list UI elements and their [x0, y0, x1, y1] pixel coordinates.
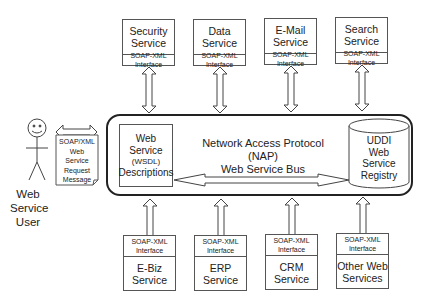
soap-xml-interface: SOAP-XMLInterface [265, 53, 316, 64]
soap-xml-interface: SOAP-XMLInterface [195, 236, 246, 257]
search-service-box: SearchService SOAP-XMLInterface [335, 17, 388, 64]
message-line1: SOAP/XML [56, 137, 98, 147]
service-name: ERPService [195, 257, 246, 290]
service-name: E-BizService [124, 257, 175, 290]
uddi-line3: Service [349, 158, 409, 170]
user-line1: Web [10, 187, 46, 201]
soap-xml-interface: SOAP-XMLInterface [124, 236, 175, 257]
top-arrow-email [284, 66, 298, 112]
service-name: DataService [194, 20, 245, 54]
security-service-box: SecurityService SOAP-XMLInterface [122, 19, 175, 66]
user-line2: Service [10, 201, 46, 215]
uddi-line4: Registry [349, 170, 409, 182]
service-name: E-MailService [265, 19, 316, 53]
uddi-line2: Web [349, 147, 409, 159]
top-arrow-data [213, 67, 227, 113]
crm-service-box: SOAP-XMLInterface CRMService [265, 234, 318, 290]
service-name: SecurityService [123, 20, 174, 54]
top-arrow-search [355, 65, 369, 111]
uddi-line1: UDDI [349, 135, 409, 147]
other-web-services-box: SOAP-XMLInterface Other WebServices [336, 233, 389, 289]
service-name: Other WebServices [337, 255, 388, 288]
bus-title-line2: Web Service Bus [188, 163, 338, 176]
message-line2: Web [56, 147, 98, 157]
service-name: CRMService [266, 256, 317, 289]
data-service-box: DataService SOAP-XMLInterface [193, 19, 246, 66]
bus-title: Network Access Protocol (NAP) Web Servic… [188, 137, 338, 176]
soap-xml-interface: SOAP-XMLInterface [337, 234, 388, 255]
web-service-user-label: Web Service User [10, 187, 46, 229]
top-arrow-security [142, 67, 156, 113]
wsdl-line3: (WSDL) [132, 157, 160, 167]
ebiz-service-box: SOAP-XMLInterface E-BizService [123, 235, 176, 291]
wsdl-line2: Service [129, 145, 162, 157]
message-line4: Request [56, 166, 98, 176]
user-stick-figure-icon [26, 119, 48, 180]
uddi-registry-label: UDDI Web Service Registry [349, 135, 409, 181]
bus-title-line1: Network Access Protocol (NAP) [188, 137, 338, 163]
soap-xml-interface: SOAP-XMLInterface [194, 54, 245, 65]
message-line5: Message [56, 175, 98, 185]
erp-service-box: SOAP-XMLInterface ERPService [194, 235, 247, 291]
message-line3: Service [56, 156, 98, 166]
email-service-box: E-MailService SOAP-XMLInterface [264, 18, 317, 65]
wsdl-descriptions-box: Web Service (WSDL) Descriptions [119, 124, 173, 187]
wsdl-line1: Web [136, 133, 156, 145]
soap-xml-interface: SOAP-XMLInterface [336, 52, 387, 63]
request-message-label: SOAP/XML Web Service Request Message [56, 135, 98, 185]
user-line3: User [10, 215, 46, 229]
service-name: SearchService [336, 18, 387, 52]
soap-xml-interface: SOAP-XMLInterface [123, 54, 174, 65]
wsdl-line4: Descriptions [118, 167, 173, 179]
soap-xml-interface: SOAP-XMLInterface [266, 235, 317, 256]
